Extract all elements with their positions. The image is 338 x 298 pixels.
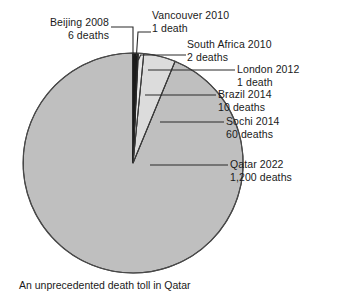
callout-title-brazil-2014: Brazil 2014: [218, 88, 272, 101]
leader-line-beijing-2008: [111, 27, 133, 56]
callout-label-sochi-2014: Sochi 2014 60 deaths: [226, 115, 280, 140]
callout-value-south-africa-2010: 2 deaths: [187, 51, 272, 64]
callout-value-vancouver-2010: 1 death: [152, 22, 229, 35]
callout-label-brazil-2014: Brazil 2014 10 deaths: [218, 88, 272, 113]
pie-chart-figure: Beijing 2008 6 deaths Vancouver 2010 1 d…: [0, 0, 338, 298]
callout-label-qatar-2022: Qatar 2022 1,200 deaths: [230, 158, 292, 183]
callout-value-london-2012: 1 death: [237, 76, 299, 89]
callout-value-qatar-2022: 1,200 deaths: [230, 171, 292, 184]
callout-value-beijing-2008: 6 deaths: [12, 29, 109, 42]
callout-title-vancouver-2010: Vancouver 2010: [152, 9, 229, 22]
callout-label-vancouver-2010: Vancouver 2010 1 death: [152, 9, 229, 34]
callout-label-beijing-2008: Beijing 2008 6 deaths: [12, 16, 109, 41]
leader-line-vancouver-2010: [136, 32, 151, 56]
figure-caption: An unprecedented death toll in Qatar: [19, 279, 191, 292]
callout-value-brazil-2014: 10 deaths: [218, 101, 272, 114]
pie-chart-canvas: [0, 0, 338, 298]
callout-title-london-2012: London 2012: [237, 63, 299, 76]
callout-title-south-africa-2010: South Africa 2010: [187, 38, 272, 51]
callout-title-beijing-2008: Beijing 2008: [12, 16, 109, 29]
callout-label-south-africa-2010: South Africa 2010 2 deaths: [187, 38, 272, 63]
callout-label-london-2012: London 2012 1 death: [237, 63, 299, 88]
callout-title-sochi-2014: Sochi 2014: [226, 115, 280, 128]
callout-value-sochi-2014: 60 deaths: [226, 128, 280, 141]
callout-title-qatar-2022: Qatar 2022: [230, 158, 292, 171]
